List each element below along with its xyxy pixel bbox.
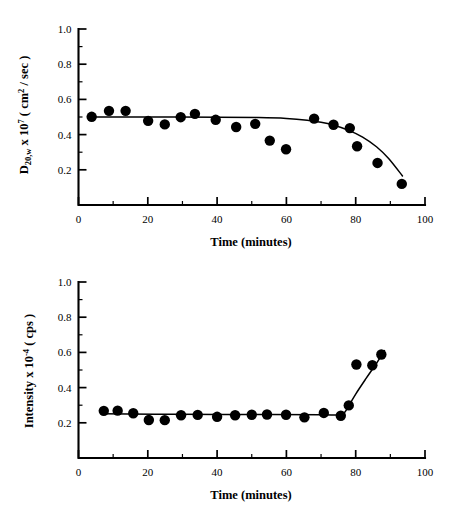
x-tick-label: 80 — [350, 213, 362, 225]
x-tick-label: 40 — [212, 466, 224, 478]
data-point-marker — [86, 112, 96, 122]
y-tick-label: 0.4 — [58, 382, 72, 394]
x-tick-label: 20 — [142, 466, 154, 478]
data-point-marker — [112, 405, 122, 415]
data-point-marker — [193, 410, 203, 420]
data-point-marker — [281, 410, 291, 420]
x-tick-label: 60 — [281, 213, 293, 225]
data-point-marker — [160, 415, 170, 425]
data-point-marker — [230, 410, 240, 420]
data-point-marker — [231, 122, 241, 132]
data-point-marker — [262, 409, 272, 419]
data-point-marker — [344, 400, 354, 410]
data-point-marker — [250, 119, 260, 129]
y-tick-label: 0.6 — [58, 93, 72, 105]
x-tick-marks — [79, 197, 426, 205]
data-point-marker — [351, 359, 361, 369]
chart-panel-intensity: 020406080100 0.20.40.60.81.0 Intensity x… — [0, 253, 457, 506]
data-point-marker — [367, 360, 377, 370]
data-point-marker — [328, 120, 338, 130]
data-point-marker — [128, 408, 138, 418]
y-tick-label: 0.8 — [58, 311, 72, 323]
x-tick-marks — [79, 450, 426, 458]
data-point-marker — [345, 123, 355, 133]
y-tick-marks — [79, 29, 87, 170]
data-point-marker — [299, 412, 309, 422]
data-point-marker — [319, 408, 329, 418]
data-point-marker — [176, 410, 186, 420]
data-point-marker — [336, 411, 346, 421]
chart-svg-diffusion: 020406080100 0.20.40.60.81.0 D20,w x 107… — [0, 0, 457, 253]
y-tick-labels: 0.20.40.60.81.0 — [58, 23, 72, 176]
x-tick-label: 100 — [417, 466, 434, 478]
y-tick-labels: 0.20.40.60.81.0 — [58, 276, 72, 429]
data-point-marker — [309, 113, 319, 123]
data-point-marker — [211, 115, 221, 125]
y-tick-label: 1.0 — [58, 276, 72, 288]
y-tick-label: 0.2 — [58, 417, 72, 429]
data-point-marker — [104, 106, 114, 116]
fit-curve — [102, 351, 384, 415]
data-point-marker — [143, 116, 153, 126]
y-tick-label: 0.4 — [58, 129, 72, 141]
chart-panel-diffusion: 020406080100 0.20.40.60.81.0 D20,w x 107… — [0, 0, 457, 253]
y-tick-label: 0.6 — [58, 346, 72, 358]
y-axis-title: D20,w x 107 ( cm2 / sec ) — [16, 56, 34, 175]
data-point-marker — [120, 106, 130, 116]
data-point-marker — [176, 112, 186, 122]
x-tick-labels: 020406080100 — [76, 466, 434, 478]
data-point-marker — [247, 410, 257, 420]
x-tick-label: 20 — [142, 213, 154, 225]
x-tick-label: 80 — [350, 466, 362, 478]
data-point-marker — [144, 415, 154, 425]
x-tick-label: 0 — [76, 466, 82, 478]
x-tick-label: 40 — [212, 213, 224, 225]
data-point-marker — [352, 141, 362, 151]
x-axis-title: Time (minutes) — [210, 235, 291, 249]
data-point-marker — [212, 412, 222, 422]
data-point-marker — [372, 158, 382, 168]
data-point-marker — [190, 109, 200, 119]
data-point-marker — [376, 349, 386, 359]
x-tick-labels: 020406080100 — [76, 213, 434, 225]
figure-container: 020406080100 0.20.40.60.81.0 D20,w x 107… — [0, 0, 457, 506]
x-tick-label: 60 — [281, 466, 293, 478]
data-point-marker — [160, 119, 170, 129]
y-axis-title: Intensity x 10-4 ( cps ) — [21, 314, 37, 428]
y-tick-label: 0.8 — [58, 58, 72, 70]
chart-svg-intensity: 020406080100 0.20.40.60.81.0 Intensity x… — [0, 253, 457, 506]
x-tick-label: 0 — [76, 213, 82, 225]
y-tick-marks — [79, 282, 87, 423]
y-tick-label: 1.0 — [58, 23, 72, 35]
data-point-marker — [281, 144, 291, 154]
y-tick-label: 0.2 — [58, 164, 72, 176]
data-point-marker — [397, 179, 407, 189]
x-axis-title: Time (minutes) — [210, 488, 291, 502]
x-tick-label: 100 — [417, 213, 434, 225]
data-point-marker — [265, 135, 275, 145]
data-point-marker — [99, 406, 109, 416]
